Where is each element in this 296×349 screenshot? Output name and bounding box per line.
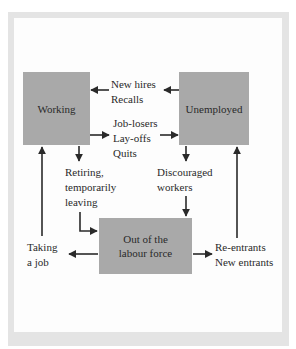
arrow-retiring-to-out <box>80 212 97 231</box>
flow-arrows <box>0 0 296 349</box>
